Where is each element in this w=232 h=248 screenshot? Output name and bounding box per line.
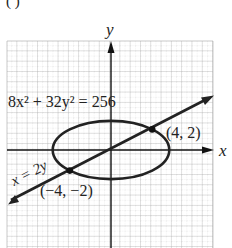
ellipse-equation-label: 8x² + 32y² = 256 — [8, 93, 116, 111]
top-fragment: ( ) — [6, 0, 20, 10]
point-label-1: (4, 2) — [166, 124, 201, 142]
x-axis-label: x — [218, 141, 227, 160]
y-axis-label: y — [104, 20, 114, 39]
intersection-point-2 — [67, 167, 74, 174]
point-label-2: (−4, −2) — [40, 182, 93, 200]
grid — [7, 41, 213, 248]
graph-figure: ( ) y x 8x² + 32y² = 256 x = 2y (4, 2) (… — [0, 0, 232, 248]
intersection-point-1 — [149, 126, 156, 133]
